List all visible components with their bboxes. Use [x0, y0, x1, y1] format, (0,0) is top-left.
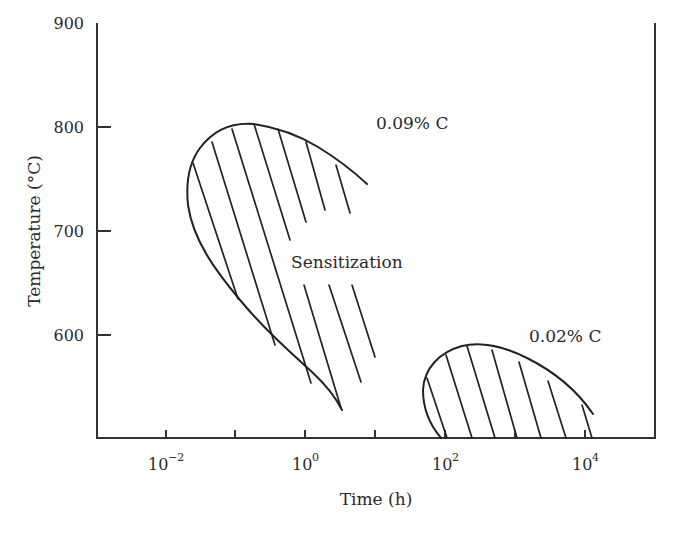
x-tick-1e2: 10 2	[432, 451, 459, 474]
label-0.02C: 0.02% C	[529, 326, 601, 346]
x-tick-1e4: 10 4	[572, 451, 599, 474]
y-tick-700: 700	[53, 222, 84, 241]
x-tick-base: 10	[292, 455, 312, 474]
x-tick-exponent: −2	[168, 451, 184, 464]
x-tick-1e-2: 10 −2	[148, 451, 184, 474]
sensitization-chart: 900 800 700 600 10 −2 10 0 10 2 10 4 Tim…	[0, 0, 675, 535]
x-tick-exponent: 0	[312, 451, 319, 464]
x-tick-base: 10	[432, 455, 452, 474]
y-tick-800: 800	[53, 118, 84, 137]
x-tick-1e0: 10 0	[292, 451, 319, 474]
x-tick-base: 10	[148, 455, 168, 474]
y-axis-ticks	[97, 127, 111, 335]
x-tick-exponent: 2	[452, 451, 459, 464]
y-tick-600: 600	[53, 326, 84, 345]
x-tick-exponent: 4	[592, 451, 599, 464]
label-0.09C: 0.09% C	[376, 113, 448, 133]
x-axis-title: Time (h)	[340, 489, 413, 509]
y-axis-title: Temperature (°C)	[24, 155, 44, 307]
x-tick-base: 10	[572, 455, 592, 474]
plot-frame	[97, 23, 655, 438]
y-tick-900: 900	[53, 14, 84, 33]
label-sensitization: Sensitization	[291, 252, 403, 272]
curve-0.02C	[423, 344, 593, 438]
x-axis-ticks	[166, 430, 585, 438]
